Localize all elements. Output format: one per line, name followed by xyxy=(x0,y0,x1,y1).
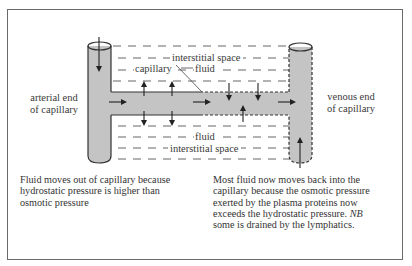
venous-end-line2: of capillary xyxy=(316,103,386,115)
top-fluid-label: fluid xyxy=(194,63,216,75)
venous-end-label: venous end of capillary xyxy=(316,91,386,114)
arterial-end-line2: of capillary xyxy=(22,104,86,116)
caption-venous-text: Most fluid now moves back into the capil… xyxy=(213,174,370,219)
bottom-fluid-label: fluid xyxy=(194,131,216,143)
venous-end-line1: venous end xyxy=(316,91,386,103)
arterial-end-line1: arterial end xyxy=(22,92,86,104)
top-interstitial-space-label: interstitial space xyxy=(170,52,243,64)
caption-nb: NB xyxy=(350,208,363,219)
bottom-interstitial-space-label: interstitial space xyxy=(168,143,241,155)
caption-venous-text-end: some is drained by the lymphatics. xyxy=(213,219,354,230)
arterial-end-label: arterial end of capillary xyxy=(22,92,86,115)
caption-venous: Most fluid now moves back into the capil… xyxy=(213,174,381,230)
capillary-label: capillary xyxy=(134,63,173,75)
caption-arterial: Fluid moves out of capillary because hyd… xyxy=(20,174,172,208)
